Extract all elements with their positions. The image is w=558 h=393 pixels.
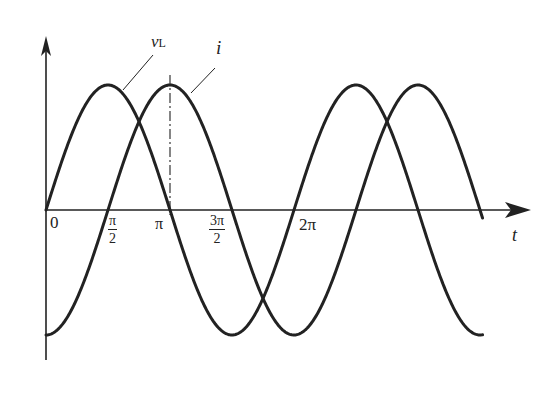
- voltage-leader-line: [123, 55, 153, 90]
- half-pi-numerator: π: [108, 214, 117, 230]
- current-leader-line: [191, 68, 215, 93]
- half-pi-denominator: 2: [108, 230, 117, 246]
- tick-label-half-pi: π 2: [108, 214, 117, 246]
- voltage-symbol: v: [151, 32, 159, 51]
- tick-label-0: 0: [50, 214, 59, 231]
- x-axis-label: t: [512, 226, 517, 244]
- tick-label-two-pi: 2π: [299, 216, 316, 233]
- current-label: i: [216, 38, 221, 57]
- voltage-label: vL: [151, 33, 166, 50]
- waveform-diagram: [0, 0, 558, 393]
- tick-label-three-half-pi: 3π 2: [209, 214, 225, 246]
- voltage-subscript: L: [159, 36, 166, 50]
- three-half-pi-numerator: 3π: [209, 214, 225, 230]
- tick-label-pi: π: [155, 216, 163, 232]
- three-half-pi-denominator: 2: [209, 230, 225, 246]
